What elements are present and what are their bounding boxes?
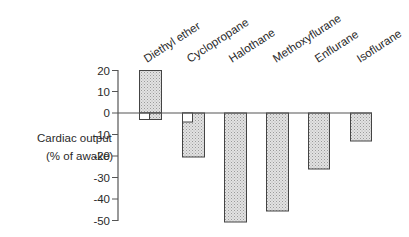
y-tick-label: -20 [93, 150, 110, 162]
y-tick-label: 0 [104, 107, 110, 119]
bar-open [183, 113, 193, 122]
bar-stippled-lower [150, 113, 162, 120]
category-label-isoflurane: Isoflurane [355, 27, 404, 65]
y-axis: 20 10 0 -10 -20 -30 -40 -50 [93, 65, 118, 227]
y-tick-label: -40 [93, 193, 110, 205]
bar-stippled-isoflurane [351, 113, 372, 141]
y-tick-labels: 20 10 0 -10 -20 -30 -40 -50 [93, 65, 110, 227]
category-labels: Diethyl ether Cyclopropane Halothane Met… [142, 12, 404, 65]
bar-stippled-enflurane [309, 113, 330, 169]
y-tick-label: 20 [97, 65, 110, 77]
bar-stippled-methoxyflurane [267, 113, 289, 211]
bars [140, 71, 372, 223]
y-tick-label: 10 [97, 86, 110, 98]
bar-group-diethyl-ether [140, 71, 162, 120]
y-ticks [112, 71, 118, 221]
y-tick-label: -50 [93, 215, 110, 227]
bar-group-cyclopropane [183, 113, 205, 157]
bar-stippled-halothane [225, 113, 247, 222]
bar-open [140, 113, 150, 120]
bar-stippled [140, 71, 162, 114]
category-label-methoxyflurane: Methoxyflurane [271, 12, 343, 65]
bar-chart: Cardiac output (% of awake) 20 10 0 -10 … [0, 0, 409, 237]
y-tick-label: -10 [93, 129, 110, 141]
y-tick-label: -30 [93, 172, 110, 184]
